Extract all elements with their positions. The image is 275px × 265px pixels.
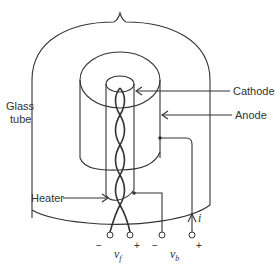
terminal-anode-plus[interactable] bbox=[189, 232, 195, 238]
glass-tube-label-line2: tube bbox=[10, 113, 31, 125]
sign-anode-plus: + bbox=[196, 240, 202, 251]
cathode-cylinder bbox=[106, 76, 134, 200]
vf-label: vf bbox=[114, 247, 123, 263]
cathode-label: Cathode bbox=[233, 85, 275, 97]
anode-label: Anode bbox=[235, 109, 267, 121]
heater-filament bbox=[110, 88, 130, 232]
terminal-cathode-minus[interactable] bbox=[159, 232, 165, 238]
vacuum-tube-diagram: i − + − + vf vb Cathode Anode Glass tube… bbox=[0, 0, 275, 265]
glass-tube-label-line1: Glass bbox=[6, 100, 35, 112]
anode-lead bbox=[158, 136, 192, 232]
sign-heater-plus: + bbox=[134, 240, 140, 251]
heater-label: Heater bbox=[31, 192, 64, 204]
cathode-lead bbox=[132, 191, 162, 232]
sign-cathode-minus: − bbox=[152, 240, 158, 251]
terminal-heater-minus[interactable] bbox=[107, 232, 113, 238]
sign-heater-minus: − bbox=[96, 240, 102, 251]
anode-cylinder bbox=[80, 52, 160, 170]
terminal-heater-plus[interactable] bbox=[127, 232, 133, 238]
current-label: i bbox=[198, 211, 201, 225]
vb-label: vb bbox=[170, 247, 179, 263]
